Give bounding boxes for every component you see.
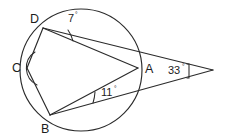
chord-c-to-b xyxy=(27,68,50,115)
vertex-label-d: D xyxy=(30,12,39,26)
diagram-canvas: D C B A 7 ° 11 ° 33 ° xyxy=(0,0,226,140)
angle-value-at-d: 7 xyxy=(68,12,74,24)
angle-value-at-e: 33 xyxy=(168,64,180,76)
vertex-label-a: A xyxy=(145,62,154,76)
vertex-label-b: B xyxy=(41,122,49,136)
geometry-diagram: D C B A 7 ° 11 ° 33 ° xyxy=(0,0,226,140)
segment-b-to-a xyxy=(50,68,138,115)
circle-outline xyxy=(20,9,142,131)
angle-arc-at-b xyxy=(93,92,95,103)
vertex-label-c: C xyxy=(12,61,21,75)
angle-degree-symbol-at-b: ° xyxy=(114,85,117,92)
angle-degree-symbol-at-e: ° xyxy=(182,63,185,70)
chord-d-to-c xyxy=(27,28,43,68)
angle-bracket-at-e xyxy=(187,64,189,78)
angle-value-at-b: 11 xyxy=(101,86,112,98)
angle-degree-symbol-at-d: ° xyxy=(75,11,78,18)
